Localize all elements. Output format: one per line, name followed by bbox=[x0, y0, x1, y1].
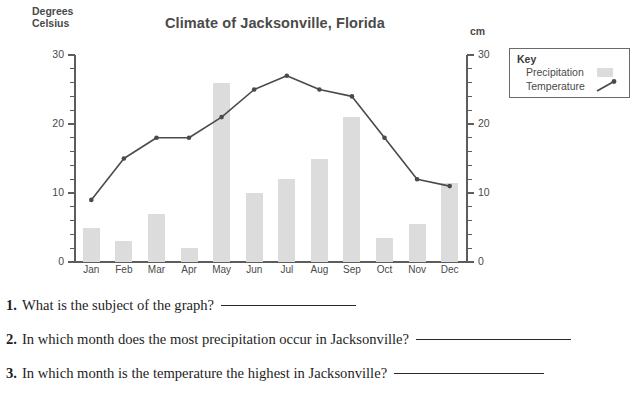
month-label-nov: Nov bbox=[401, 264, 433, 275]
month-label-dec: Dec bbox=[434, 264, 466, 275]
bar-dec bbox=[441, 183, 458, 262]
bar-may bbox=[213, 83, 230, 262]
tick-left-16 bbox=[70, 151, 75, 152]
bar-nov bbox=[409, 224, 426, 262]
tick-right-24 bbox=[467, 96, 472, 97]
question-1-answer-line[interactable] bbox=[221, 305, 356, 306]
y-axis-right-title: cm bbox=[470, 25, 485, 37]
tick-left-28 bbox=[70, 68, 75, 69]
tick-right-22 bbox=[467, 110, 472, 111]
month-label-apr: Apr bbox=[173, 264, 205, 275]
tick-left-10 bbox=[68, 192, 75, 193]
temperature-point-feb bbox=[122, 156, 127, 161]
tick-label-left-30: 30 bbox=[38, 48, 64, 60]
tick-right-30 bbox=[467, 54, 474, 55]
month-label-jul: Jul bbox=[271, 264, 303, 275]
tick-right-10 bbox=[467, 192, 474, 193]
tick-right-14 bbox=[467, 165, 472, 166]
y-axis-right-line bbox=[466, 55, 468, 263]
tick-right-28 bbox=[467, 68, 472, 69]
month-label-sep: Sep bbox=[336, 264, 368, 275]
legend-temperature-label: Temperature bbox=[526, 80, 585, 92]
bar-jul bbox=[278, 179, 295, 262]
temperature-point-mar bbox=[154, 136, 159, 141]
tick-right-12 bbox=[467, 179, 472, 180]
month-label-jun: Jun bbox=[238, 264, 270, 275]
question-1-number: 1. bbox=[6, 297, 17, 313]
question-2-text: In which month does the most precipitati… bbox=[22, 331, 409, 347]
month-label-may: May bbox=[206, 264, 238, 275]
tick-left-30 bbox=[68, 54, 75, 55]
question-1-text: What is the subject of the graph? bbox=[22, 297, 214, 313]
question-2-number: 2. bbox=[6, 331, 17, 347]
y-axis-left-title-line1: Degrees bbox=[32, 6, 73, 18]
tick-right-4 bbox=[467, 234, 472, 235]
tick-right-18 bbox=[467, 137, 472, 138]
tick-right-26 bbox=[467, 82, 472, 83]
question-2: 2.In which month does the most precipita… bbox=[6, 331, 571, 348]
worksheet-questions: 1.What is the subject of the graph? 2.In… bbox=[0, 288, 639, 395]
tick-label-right-30: 30 bbox=[478, 48, 490, 60]
climate-chart: Climate of Jacksonville, Florida Degrees… bbox=[0, 0, 639, 285]
tick-label-right-20: 20 bbox=[478, 117, 490, 129]
bar-oct bbox=[376, 238, 393, 262]
tick-right-20 bbox=[467, 123, 474, 124]
question-3: 3.In which month is the temperature the … bbox=[6, 365, 544, 382]
tick-left-22 bbox=[70, 110, 75, 111]
tick-left-4 bbox=[70, 234, 75, 235]
tick-left-20 bbox=[68, 123, 75, 124]
tick-left-8 bbox=[70, 206, 75, 207]
tick-left-12 bbox=[70, 179, 75, 180]
bar-feb bbox=[115, 241, 132, 262]
bar-aug bbox=[311, 159, 328, 263]
tick-left-0 bbox=[68, 261, 75, 262]
month-label-aug: Aug bbox=[303, 264, 335, 275]
temperature-point-apr bbox=[187, 136, 192, 141]
question-3-text: In which month is the temperature the hi… bbox=[22, 365, 387, 381]
tick-right-6 bbox=[467, 220, 472, 221]
chart-title: Climate of Jacksonville, Florida bbox=[140, 15, 410, 31]
question-3-answer-line[interactable] bbox=[394, 373, 544, 374]
temperature-point-aug bbox=[317, 87, 322, 92]
tick-label-right-0: 0 bbox=[478, 255, 484, 267]
bar-jun bbox=[246, 193, 263, 262]
legend-precipitation-swatch bbox=[597, 68, 613, 77]
tick-left-26 bbox=[70, 82, 75, 83]
tick-left-18 bbox=[70, 137, 75, 138]
month-label-oct: Oct bbox=[369, 264, 401, 275]
question-3-number: 3. bbox=[6, 365, 17, 381]
tick-right-0 bbox=[467, 261, 474, 262]
temperature-point-jun bbox=[252, 87, 257, 92]
legend-temperature-symbol bbox=[596, 79, 618, 92]
legend-title: Key bbox=[517, 53, 536, 65]
question-1: 1.What is the subject of the graph? bbox=[6, 297, 356, 314]
bar-sep bbox=[343, 117, 360, 262]
tick-label-left-10: 10 bbox=[38, 186, 64, 198]
month-label-jan: Jan bbox=[75, 264, 107, 275]
bar-mar bbox=[148, 214, 165, 262]
bar-jan bbox=[83, 228, 100, 263]
month-label-feb: Feb bbox=[108, 264, 140, 275]
tick-left-6 bbox=[70, 220, 75, 221]
legend-precipitation-label: Precipitation bbox=[526, 66, 584, 78]
month-label-mar: Mar bbox=[140, 264, 172, 275]
legend-box: Key Precipitation Temperature bbox=[509, 48, 630, 98]
temperature-point-sep bbox=[350, 94, 355, 99]
y-axis-left-title-line2: Celsius bbox=[32, 18, 73, 30]
tick-label-left-0: 0 bbox=[38, 255, 64, 267]
tick-label-left-20: 20 bbox=[38, 117, 64, 129]
tick-left-24 bbox=[70, 96, 75, 97]
tick-left-14 bbox=[70, 165, 75, 166]
tick-left-2 bbox=[70, 248, 75, 249]
temperature-point-oct bbox=[382, 136, 387, 141]
tick-right-2 bbox=[467, 248, 472, 249]
tick-right-8 bbox=[467, 206, 472, 207]
bar-apr bbox=[181, 248, 198, 262]
y-axis-left-title: Degrees Celsius bbox=[32, 6, 73, 29]
question-2-answer-line[interactable] bbox=[416, 339, 571, 340]
tick-label-right-10: 10 bbox=[478, 186, 490, 198]
tick-right-16 bbox=[467, 151, 472, 152]
temperature-point-nov bbox=[415, 177, 420, 182]
temperature-point-jan bbox=[89, 198, 94, 203]
temperature-point-jul bbox=[285, 73, 290, 78]
